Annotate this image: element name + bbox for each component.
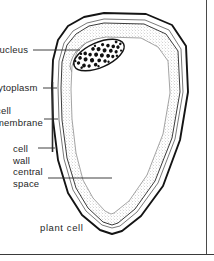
- plant-cell-diagram: [0, 0, 214, 261]
- page-rule-horizontal: [0, 254, 214, 255]
- page-rule-vertical: [206, 0, 207, 255]
- plant-cell-figure: nucleus cytoplasm cell membrane cell wal…: [0, 0, 214, 261]
- figure-caption: plant cell: [40, 222, 84, 233]
